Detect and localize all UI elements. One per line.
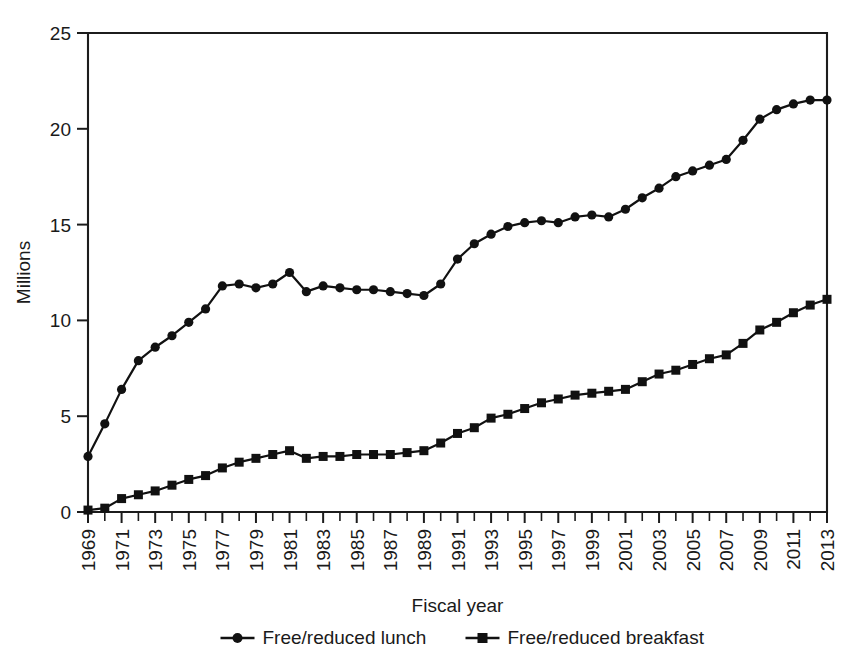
data-point-marker: [251, 283, 260, 292]
x-tick-label: 2007: [716, 529, 737, 571]
x-axis-title-text: Fiscal year: [412, 595, 505, 616]
y-axis-tick-labels: 0510152025: [50, 23, 71, 523]
chart-container: 0510152025 19691971197319751977197919811…: [0, 0, 855, 663]
data-point-marker: [335, 452, 344, 461]
x-tick-label: 2009: [750, 529, 771, 571]
x-tick-label: 1975: [179, 529, 200, 571]
data-point-marker: [403, 289, 412, 298]
data-point-marker: [352, 450, 361, 459]
x-tick-label: 2005: [683, 529, 704, 571]
data-point-marker: [235, 458, 244, 467]
y-axis-ticks: [77, 33, 88, 512]
data-point-marker: [335, 283, 344, 292]
data-point-marker: [134, 356, 143, 365]
data-point-marker: [285, 268, 294, 277]
data-point-marker: [655, 370, 664, 379]
y-tick-label: 5: [60, 406, 71, 427]
data-point-marker: [251, 454, 260, 463]
data-point-marker: [688, 360, 697, 369]
y-tick-label: 20: [50, 119, 71, 140]
x-tick-label: 2001: [615, 529, 636, 571]
data-point-marker: [369, 285, 378, 294]
data-point-marker: [503, 410, 512, 419]
data-point-marker: [352, 285, 361, 294]
data-point-marker: [218, 281, 227, 290]
data-point-marker: [84, 506, 93, 515]
data-point-marker: [386, 287, 395, 296]
legend-item-breakfast[interactable]: Free/reduced breakfast: [466, 627, 705, 648]
legend-marker-circle: [233, 633, 243, 643]
data-point-marker: [319, 281, 328, 290]
data-point-marker: [789, 308, 798, 317]
x-tick-label: 2013: [817, 529, 838, 571]
x-tick-label: 1985: [347, 529, 368, 571]
data-point-marker: [285, 446, 294, 455]
y-tick-label: 0: [60, 502, 71, 523]
data-point-marker: [235, 279, 244, 288]
y-tick-label: 10: [50, 310, 71, 331]
data-point-marker: [503, 222, 512, 231]
data-point-marker: [671, 172, 680, 181]
data-point-marker: [571, 391, 580, 400]
x-axis-tick-labels: 1969197119731975197719791981198319851987…: [78, 529, 838, 571]
series-line: [88, 299, 827, 510]
data-point-marker: [218, 463, 227, 472]
data-point-marker: [638, 377, 647, 386]
data-point-marker: [772, 105, 781, 114]
data-point-marker: [822, 95, 831, 104]
data-point-marker: [184, 475, 193, 484]
data-point-marker: [419, 446, 428, 455]
x-tick-label: 1977: [212, 529, 233, 571]
data-point-marker: [705, 161, 714, 170]
data-point-marker: [823, 295, 832, 304]
x-tick-label: 1971: [112, 529, 133, 571]
data-point-marker: [772, 318, 781, 327]
data-point-marker: [100, 504, 109, 513]
data-point-marker: [453, 254, 462, 263]
x-tick-label: 1981: [280, 529, 301, 571]
data-point-marker: [722, 350, 731, 359]
y-axis-title: Millions: [13, 241, 34, 304]
data-point-marker: [604, 212, 613, 221]
series-breakfast: [84, 295, 832, 515]
data-point-marker: [134, 490, 143, 499]
data-point-marker: [167, 481, 176, 490]
y-axis-title-text: Millions: [13, 241, 34, 304]
data-point-marker: [520, 218, 529, 227]
data-point-marker: [470, 239, 479, 248]
data-point-marker: [722, 155, 731, 164]
data-point-marker: [268, 279, 277, 288]
data-point-marker: [184, 318, 193, 327]
y-tick-label: 25: [50, 23, 71, 44]
data-point-marker: [436, 279, 445, 288]
data-point-marker: [587, 389, 596, 398]
y-tick-label: 15: [50, 215, 71, 236]
x-axis-title: Fiscal year: [412, 595, 505, 616]
x-tick-label: 1993: [481, 529, 502, 571]
data-point-marker: [739, 339, 748, 348]
data-point-marker: [83, 452, 92, 461]
x-axis-ticks: [88, 512, 827, 523]
data-point-marker: [587, 210, 596, 219]
data-point-marker: [302, 454, 311, 463]
data-point-marker: [705, 354, 714, 363]
data-point-marker: [789, 99, 798, 108]
data-point-marker: [319, 452, 328, 461]
data-point-marker: [117, 385, 126, 394]
data-point-marker: [520, 404, 529, 413]
x-tick-label: 1999: [582, 529, 603, 571]
x-tick-label: 1997: [548, 529, 569, 571]
data-point-marker: [671, 366, 680, 375]
x-tick-label: 1983: [313, 529, 334, 571]
data-point-marker: [453, 429, 462, 438]
x-tick-label: 1973: [145, 529, 166, 571]
x-tick-label: 1969: [78, 529, 99, 571]
data-point-marker: [738, 136, 747, 145]
legend-item-lunch[interactable]: Free/reduced lunch: [221, 627, 427, 648]
series-line: [88, 100, 827, 456]
x-tick-label: 2003: [649, 529, 670, 571]
plot-border: [88, 33, 827, 512]
legend-label: Free/reduced breakfast: [508, 627, 705, 648]
data-point-marker: [604, 387, 613, 396]
data-point-marker: [688, 166, 697, 175]
